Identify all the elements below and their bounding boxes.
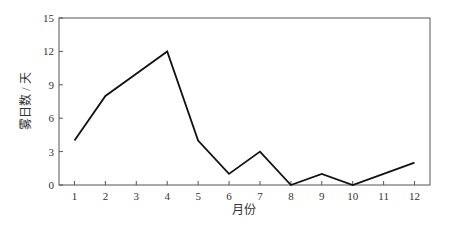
x-tick-label: 11	[378, 190, 389, 202]
x-axis-label: 月份	[232, 203, 256, 217]
x-tick-label: 3	[134, 190, 140, 202]
x-tick-label: 6	[226, 190, 232, 202]
y-tick-label: 12	[43, 45, 54, 57]
x-tick-label: 8	[288, 190, 294, 202]
y-tick-label: 0	[49, 179, 55, 191]
fog-days-line-chart: 03691215 123456789101112 月份 雾日数 / 天	[0, 0, 449, 228]
x-tick-label: 2	[103, 190, 109, 202]
y-tick-label: 15	[43, 12, 55, 24]
y-tick-label: 3	[49, 146, 55, 158]
y-tick-label: 9	[49, 79, 55, 91]
x-tick-label: 5	[195, 190, 201, 202]
x-tick-label: 12	[409, 190, 420, 202]
y-axis-label: 雾日数 / 天	[18, 72, 33, 129]
x-tick-label: 10	[347, 190, 359, 202]
x-axis-ticks: 123456789101112	[72, 181, 420, 202]
x-tick-label: 7	[257, 190, 263, 202]
plot-frame	[59, 18, 430, 185]
fog-days-series-line	[75, 51, 415, 185]
y-axis-ticks: 03691215	[43, 12, 63, 191]
y-tick-label: 6	[49, 112, 55, 124]
x-tick-label: 1	[72, 190, 78, 202]
x-tick-label: 4	[164, 190, 170, 202]
x-tick-label: 9	[319, 190, 325, 202]
